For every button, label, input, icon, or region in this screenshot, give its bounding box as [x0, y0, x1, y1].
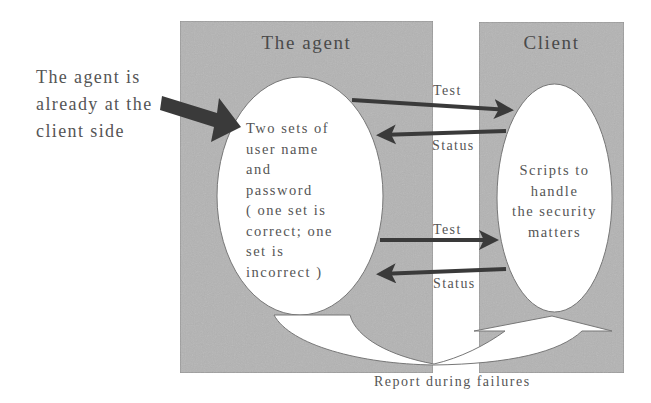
- agent-text-line: correct; one: [246, 221, 386, 242]
- side-note-line: client side: [36, 118, 176, 145]
- agent-text-line: Two sets of: [246, 118, 386, 139]
- client-box-title: Client: [479, 32, 624, 54]
- client-text-line: handle: [497, 181, 612, 202]
- side-note: The agent is already at the client side: [36, 64, 176, 145]
- client-text-line: Scripts to: [497, 160, 612, 181]
- test-label-2: Test: [433, 222, 462, 238]
- side-note-line: The agent is: [36, 64, 176, 91]
- report-label: Report during failures: [374, 374, 531, 390]
- agent-ellipse-text: Two sets of user name and password ( one…: [246, 118, 386, 282]
- agent-text-line: ( one set is: [246, 200, 386, 221]
- client-text-line: the security: [497, 201, 612, 222]
- client-ellipse-text: Scripts to handle the security matters: [497, 160, 612, 242]
- agent-box-title: The agent: [180, 32, 433, 54]
- status-label-1: Status: [432, 138, 475, 154]
- side-note-line: already at the: [36, 91, 176, 118]
- agent-text-line: password: [246, 180, 386, 201]
- status-label-2: Status: [433, 276, 476, 292]
- agent-text-line: incorrect ): [246, 262, 386, 283]
- test-label-1: Test: [433, 83, 462, 99]
- agent-text-line: user name: [246, 139, 386, 160]
- agent-text-line: and: [246, 159, 386, 180]
- client-text-line: matters: [497, 222, 612, 243]
- agent-text-line: set is: [246, 241, 386, 262]
